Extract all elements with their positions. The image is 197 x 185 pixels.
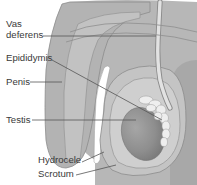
- label-penis: Penis: [6, 76, 30, 87]
- label-scrotum: Scrotum: [38, 168, 74, 179]
- label-hydrocele: Hydrocele: [38, 154, 81, 165]
- label-testis: Testis: [6, 114, 31, 125]
- hydrocele-diagram: Vas deferens Epididymis Penis Testis Hyd…: [0, 0, 197, 185]
- label-vas-line1: Vas: [6, 18, 43, 29]
- label-vas-line2: deferens: [6, 29, 43, 40]
- label-vas-deferens: Vas deferens: [6, 18, 43, 40]
- label-epididymis: Epididymis: [6, 52, 52, 63]
